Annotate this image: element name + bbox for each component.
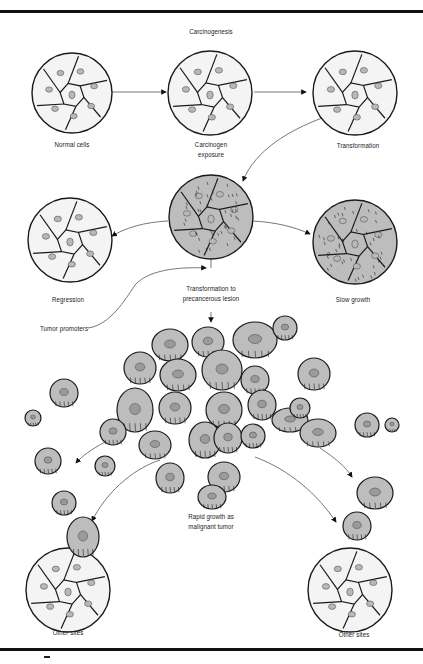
cluster-other-sites-left bbox=[26, 548, 110, 632]
detached-tumor-cell bbox=[95, 456, 115, 476]
nucleus bbox=[40, 584, 47, 590]
detached-tumor-cell bbox=[50, 379, 78, 407]
nucleus bbox=[90, 230, 97, 236]
nucleus bbox=[46, 87, 53, 92]
tumor-cell bbox=[152, 329, 188, 361]
nucleus bbox=[375, 232, 382, 238]
nucleus bbox=[334, 107, 341, 113]
tumor-cell bbox=[206, 392, 242, 428]
nucleus bbox=[339, 218, 346, 224]
nucleus bbox=[353, 263, 360, 269]
label-regression: Regression bbox=[35, 295, 101, 305]
cluster-other-sites-right bbox=[308, 548, 392, 632]
nucleus bbox=[352, 91, 358, 99]
nucleus bbox=[189, 107, 196, 113]
nucleus bbox=[208, 114, 215, 120]
nucleus bbox=[47, 604, 54, 610]
tumor-cell bbox=[159, 392, 191, 424]
label-tumor-promoters: Tumor promoters bbox=[31, 324, 97, 334]
tumor-cell bbox=[124, 352, 156, 384]
label-other-sites-left: Other sites bbox=[35, 628, 101, 638]
nucleus bbox=[375, 83, 382, 89]
nucleus bbox=[353, 114, 360, 120]
tumor-cell bbox=[160, 359, 196, 391]
arrow-lesion-to-slow-growth bbox=[252, 221, 310, 234]
nucleus bbox=[52, 106, 59, 111]
cluster-slow-growth bbox=[313, 200, 397, 284]
tumor-cell bbox=[198, 485, 226, 509]
nucleus bbox=[194, 69, 201, 75]
tumor-cell bbox=[300, 419, 336, 447]
arrow-transformation-to-lesion bbox=[243, 118, 322, 181]
nucleus bbox=[334, 256, 341, 262]
nucleus bbox=[347, 588, 353, 596]
detached-tumor-cell bbox=[357, 477, 393, 509]
nucleus bbox=[329, 604, 336, 610]
label-transformation: Transformation bbox=[321, 141, 395, 151]
nucleus bbox=[372, 104, 379, 110]
tumor-cell bbox=[139, 431, 171, 459]
nucleus bbox=[360, 217, 367, 223]
nucleus bbox=[88, 580, 95, 586]
detached-tumor-cell bbox=[298, 358, 330, 390]
nucleus bbox=[370, 580, 377, 586]
arrow-lesion-to-regression bbox=[112, 221, 168, 236]
tumor-cell bbox=[214, 423, 242, 453]
nucleus bbox=[69, 91, 75, 99]
label-malignant-2: malignant tumor bbox=[174, 522, 248, 532]
label-carcinogen-exposure-1: Carcinogen bbox=[178, 140, 244, 150]
arrow-tumor-to-other-right bbox=[255, 457, 336, 522]
nucleus bbox=[75, 215, 82, 221]
label-malignant-1: Rapid growth as bbox=[174, 512, 248, 522]
nucleus bbox=[207, 91, 213, 99]
label-precancer-2: precancerous lesion bbox=[170, 294, 252, 304]
detached-tumor-cell bbox=[385, 418, 399, 432]
detached-tumor-cell bbox=[343, 512, 371, 540]
arrow-tumor-to-right-scatter bbox=[320, 448, 352, 477]
nucleus bbox=[65, 588, 71, 596]
label-other-sites-right: Other sites bbox=[321, 630, 387, 640]
nucleus bbox=[228, 228, 235, 234]
nucleus bbox=[57, 70, 64, 75]
nucleus bbox=[52, 566, 59, 572]
nucleus bbox=[367, 601, 374, 607]
detached-tumor-cell bbox=[52, 491, 76, 515]
detached-tumor-cell bbox=[67, 517, 99, 557]
nucleus bbox=[87, 251, 94, 257]
nucleus bbox=[355, 565, 362, 571]
nucleus bbox=[183, 211, 190, 217]
nucleus bbox=[216, 192, 223, 198]
label-slow-growth: Slow growth bbox=[320, 295, 386, 305]
nucleus bbox=[49, 254, 56, 260]
tumor-cell bbox=[156, 463, 184, 493]
nucleus bbox=[230, 83, 237, 89]
nucleus bbox=[372, 253, 379, 259]
tumor-cell bbox=[241, 424, 265, 448]
tumor-cell bbox=[202, 350, 242, 390]
nucleus bbox=[208, 215, 214, 223]
nucleus bbox=[227, 104, 234, 110]
nucleus bbox=[352, 240, 358, 248]
nucleus bbox=[182, 87, 189, 93]
nucleus bbox=[68, 261, 75, 267]
tumor-cell bbox=[248, 390, 276, 420]
nucleus bbox=[327, 87, 334, 93]
nucleus bbox=[348, 611, 355, 617]
nucleus bbox=[85, 601, 92, 607]
nucleus bbox=[70, 113, 77, 118]
tumor-cell bbox=[273, 316, 297, 340]
title-label: Carcinogenesis bbox=[178, 27, 244, 37]
nucleus bbox=[322, 584, 329, 590]
tumor-cell bbox=[233, 322, 277, 358]
cluster-precancerous-lesion bbox=[169, 175, 253, 259]
nucleus bbox=[66, 611, 73, 617]
cluster-carcinogen-exposure bbox=[168, 51, 252, 135]
cluster-regression bbox=[28, 198, 112, 282]
cluster-normal-cells bbox=[32, 53, 112, 133]
nucleus bbox=[360, 68, 367, 74]
cluster-transformation bbox=[313, 51, 397, 135]
nucleus bbox=[231, 207, 238, 213]
nucleus bbox=[54, 216, 61, 222]
nucleus bbox=[327, 236, 334, 242]
detached-tumor-cell bbox=[35, 448, 61, 474]
